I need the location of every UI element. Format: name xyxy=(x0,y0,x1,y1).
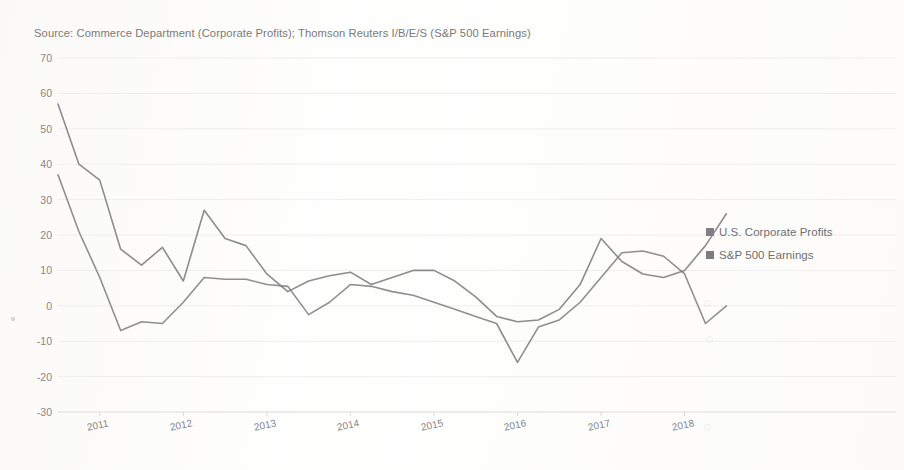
legend-item-sp500-earnings: S&P 500 Earnings xyxy=(706,245,833,265)
y-axis-tick-label: 20 xyxy=(18,229,52,241)
legend-label: S&P 500 Earnings xyxy=(719,245,814,265)
y-axis-tick-label: 0 xyxy=(18,300,52,312)
scan-artifact-mark xyxy=(704,424,711,431)
y-axis-tick-label: 50 xyxy=(18,123,52,135)
chart-legend: U.S. Corporate Profits S&P 500 Earnings xyxy=(706,222,833,268)
y-axis-tick-label: -30 xyxy=(18,406,52,418)
legend-label: U.S. Corporate Profits xyxy=(719,222,833,242)
y-axis-tick-label: -20 xyxy=(18,371,52,383)
legend-item-corporate-profits: U.S. Corporate Profits xyxy=(706,222,833,242)
scan-artifact-mark xyxy=(704,300,711,307)
y-axis-tick-label: 70 xyxy=(18,52,52,64)
scan-artifact-speck xyxy=(11,317,15,321)
y-axis-tick-label: -10 xyxy=(18,335,52,347)
scan-artifact-mark xyxy=(706,336,713,343)
y-axis-tick-label: 60 xyxy=(18,87,52,99)
legend-swatch-icon xyxy=(706,228,714,236)
y-axis-tick-label: 10 xyxy=(18,264,52,276)
y-axis-tick-label: 40 xyxy=(18,158,52,170)
legend-swatch-icon xyxy=(706,251,714,259)
chart-page: Source: Commerce Department (Corporate P… xyxy=(0,0,904,470)
y-axis-tick-label: 30 xyxy=(18,194,52,206)
